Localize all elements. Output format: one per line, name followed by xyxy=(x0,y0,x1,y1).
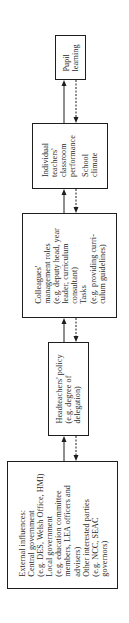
node-colleagues: Colleagues' management roles (e.g. deput… xyxy=(22,213,117,318)
node-text-line: Colleagues' xyxy=(33,228,42,304)
node-text-line: management roles xyxy=(42,228,51,304)
node-external-influences: External influences: Central government … xyxy=(7,461,118,589)
node-text-line: classroom xyxy=(59,135,68,177)
dashed-arrow-down-icon xyxy=(74,436,79,461)
node-text-line: External influences: xyxy=(17,473,26,576)
node-text-line: learning xyxy=(71,44,80,71)
solid-arrow-up-icon xyxy=(62,436,67,461)
node-pupil-learning: Pupil learning xyxy=(55,35,86,80)
node-headteachers-policy-text: Headteachers' policy (e.g. degree of del… xyxy=(55,354,82,423)
edge-pair-external-headteachers xyxy=(58,436,82,461)
node-text-line: culum guidelines) xyxy=(97,228,106,304)
node-text-line: governors) xyxy=(99,473,108,576)
dashed-arrow-down-icon xyxy=(74,318,79,342)
node-pupil-learning-text: Pupil learning xyxy=(61,44,79,71)
dashed-arrow-down-icon xyxy=(74,189,79,213)
node-text-line: Individual xyxy=(41,135,50,177)
node-individual-teachers-text: Individual teachers' classroom performan… xyxy=(41,135,100,177)
node-text-line: advisers) xyxy=(72,473,81,576)
node-text-line: Tasks xyxy=(79,228,88,304)
node-text-line: (e.g. deputy head, year xyxy=(51,228,60,304)
node-text-line: performance xyxy=(68,135,77,177)
node-text-line: (e.g. DES, Welsh Office, HMI) xyxy=(35,473,44,576)
node-text-line: (e.g. NCC, SEAC xyxy=(90,473,99,576)
node-text-line: School xyxy=(81,135,90,177)
dashed-arrow-down-icon xyxy=(74,80,79,123)
node-external-influences-text: External influences: Central government … xyxy=(17,473,108,576)
node-headteachers-policy: Headteachers' policy (e.g. degree of del… xyxy=(48,342,89,436)
edge-pair-colleagues-teachers xyxy=(58,189,82,213)
node-text-line: (e.g. providing curri- xyxy=(88,228,97,304)
node-text-line: Central government xyxy=(26,473,35,576)
node-text-line: Local government xyxy=(44,473,53,576)
node-colleagues-text: Colleagues' management roles (e.g. deput… xyxy=(33,228,106,304)
solid-arrow-up-icon xyxy=(62,189,67,213)
solid-arrow-up-icon xyxy=(62,318,67,342)
node-text-line: consultant) xyxy=(70,228,79,304)
node-text-line: Pupil xyxy=(61,44,70,71)
edge-pair-teachers-pupil xyxy=(58,80,82,123)
node-text-line: teachers' xyxy=(50,135,59,177)
solid-arrow-up-icon xyxy=(62,80,67,123)
node-individual-teachers: Individual teachers' classroom performan… xyxy=(32,123,108,189)
node-text-line: climate xyxy=(90,135,99,177)
edge-pair-headteachers-colleagues xyxy=(58,318,82,342)
node-text-line: (e.g. education committee xyxy=(53,473,62,576)
node-text-line: (e.g. degree of xyxy=(64,354,73,423)
node-text-line: Headteachers' policy xyxy=(55,354,64,423)
node-text-line: leader, curriculum xyxy=(60,228,69,304)
node-text-line: members, LEA officers and xyxy=(63,473,72,576)
node-text-line: delegation) xyxy=(73,354,82,423)
node-text-line: Other interested parties xyxy=(81,473,90,576)
